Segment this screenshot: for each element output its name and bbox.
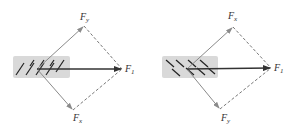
dashed-line-top [84,26,122,69]
resultant-arrow-f1 [187,68,270,69]
object-block [162,56,218,78]
label-bottom: Fy [220,112,231,125]
label-top: Fx [227,10,238,23]
label-right: F1 [124,63,135,76]
left-diagram: Fy F1 Fx [13,11,135,125]
label-bottom: Fx [72,112,83,125]
force-decomposition-diagrams: Fy F1 Fx Fx F1 Fy [0,0,297,133]
label-top: Fy [79,11,90,24]
dashed-line-top [233,27,271,68]
dashed-line-bottom [220,68,271,109]
label-right: F1 [273,62,284,75]
dashed-line-bottom [73,69,122,110]
right-diagram: Fx F1 Fy [162,10,284,125]
